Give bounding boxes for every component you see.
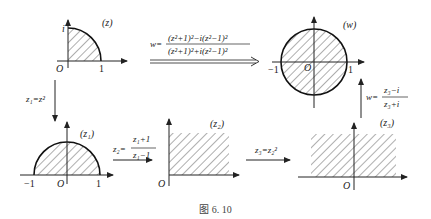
first-quadrant-region <box>169 133 229 175</box>
svg-text:(z₃): (z₃) <box>380 117 395 129</box>
svg-text:O: O <box>158 178 165 189</box>
svg-text:O: O <box>343 180 350 191</box>
panel-w: −1 O 1 (w) <box>268 17 364 108</box>
svg-text:(z₁): (z₁) <box>80 128 95 140</box>
svg-text:z₁+1: z₁+1 <box>132 134 150 144</box>
svg-text:z₂=: z₂= <box>112 144 126 154</box>
conformal-map-diagram: O 1 i (z) w= (z²+1)²−i(z²−1)² (z²+1)²+i(… <box>0 0 431 219</box>
map-z3-to-w: w= z₃−i z₃+i <box>361 79 408 118</box>
svg-text:z₃+i: z₃+i <box>383 99 400 109</box>
svg-text:(z₂): (z₂) <box>210 118 225 130</box>
panel-z2: O (z₂) <box>158 118 239 189</box>
svg-text:−1: −1 <box>24 178 35 189</box>
map-z-to-w: w= (z²+1)²−i(z²−1)² (z²+1)²+i(z²−1)² <box>150 33 259 66</box>
svg-text:O: O <box>57 178 64 189</box>
svg-text:1: 1 <box>348 64 353 75</box>
svg-text:z₁−1: z₁−1 <box>132 150 150 160</box>
svg-text:z₁=z²: z₁=z² <box>25 94 45 104</box>
panel-z: O 1 i (z) <box>56 17 127 74</box>
y-tick-label: i <box>62 23 65 34</box>
svg-text:(z²+1)²+i(z²−1)²: (z²+1)²+i(z²−1)² <box>168 46 228 56</box>
map-z2-to-z3: z₃=z₂² <box>246 145 290 160</box>
svg-text:z₃−i: z₃−i <box>383 85 400 95</box>
svg-text:z₃=z₂²: z₃=z₂² <box>254 145 277 155</box>
svg-text:−1: −1 <box>268 64 279 75</box>
panel-z1: −1 O 1 (z₁) <box>20 122 113 189</box>
map-z-to-z1: z₁=z² <box>25 80 55 121</box>
panel-z3: O (z₃) <box>298 117 407 191</box>
x-tick-label: 1 <box>99 63 104 74</box>
svg-text:1: 1 <box>96 178 101 189</box>
svg-text:(z²+1)²−i(z²−1)²: (z²+1)²−i(z²−1)² <box>168 33 228 43</box>
svg-text:w=: w= <box>150 39 162 49</box>
origin-label: O <box>56 63 63 74</box>
figure-caption: 图 6. 10 <box>0 201 431 216</box>
svg-text:w=: w= <box>366 92 378 102</box>
svg-text:O: O <box>304 62 311 73</box>
svg-text:(w): (w) <box>343 19 357 31</box>
plane-label: (z) <box>102 17 113 29</box>
map-z1-to-z2: z₂= z₁+1 z₁−1 <box>112 134 156 160</box>
